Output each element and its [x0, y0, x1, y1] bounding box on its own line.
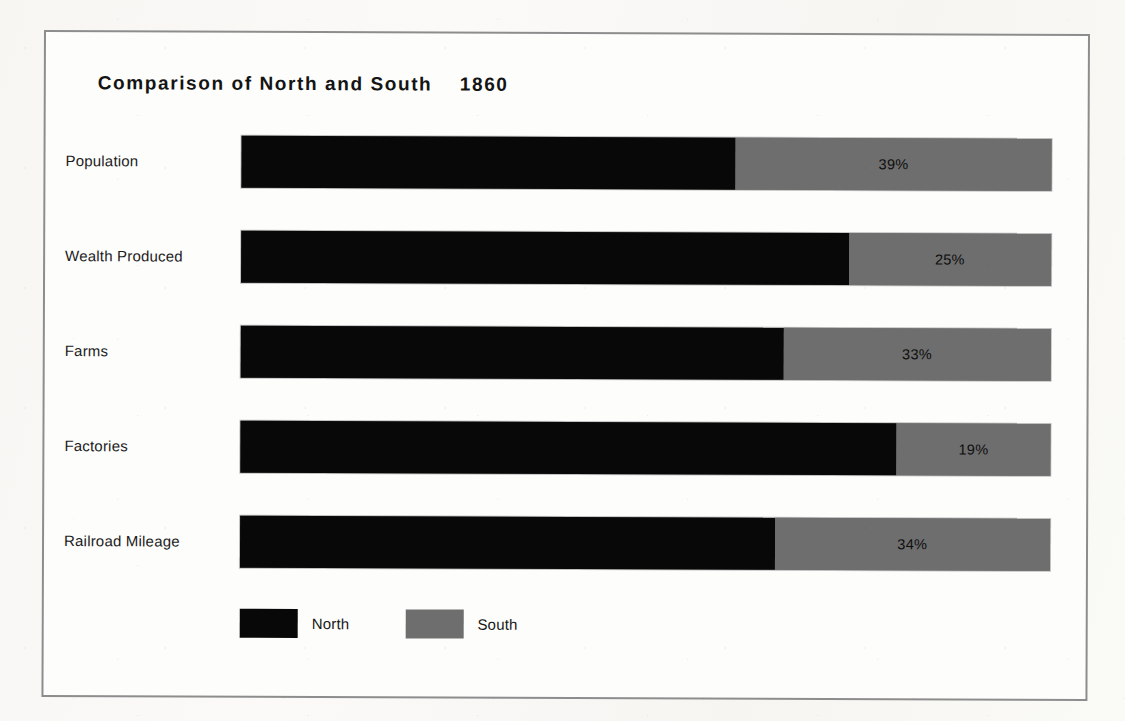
bar-segment-south: 19% [896, 423, 1050, 476]
bar-segment-north [241, 136, 735, 190]
legend-item: North [240, 608, 350, 637]
bar-value-label: 25% [935, 251, 965, 267]
chart-legend: NorthSouth [240, 606, 574, 641]
bar-rows-container: Population39%Wealth Produced25%Farms33%F… [46, 32, 1088, 36]
bar-segment-south: 25% [849, 233, 1052, 286]
bar-segment-south: 34% [775, 518, 1051, 571]
bar-row-label: Wealth Produced [65, 230, 183, 282]
bar-segment-north [240, 516, 775, 570]
legend-item: South [405, 609, 517, 638]
figure-inner: Comparison of North and South 1860 Popul… [43, 32, 1088, 699]
bar-row-label: Railroad Mileage [64, 515, 180, 567]
legend-swatch-south [405, 609, 463, 638]
bar-value-label: 33% [902, 346, 932, 362]
bar-track: 33% [241, 326, 1051, 381]
bar-row-label: Factories [64, 420, 128, 472]
bar-row-label: Farms [65, 325, 109, 377]
legend-item-label: North [312, 615, 350, 632]
bar-segment-north [241, 231, 849, 285]
bar-row-label: Population [65, 135, 138, 187]
bar-row: Wealth Produced25% [45, 230, 1087, 286]
bar-row: Population39% [45, 135, 1087, 191]
bar-row: Factories19% [44, 420, 1086, 476]
bar-track: 19% [240, 421, 1050, 476]
bar-row: Railroad Mileage34% [44, 515, 1086, 571]
bar-track: 25% [241, 231, 1051, 286]
bar-value-label: 34% [897, 536, 927, 552]
legend-item-label: South [477, 615, 517, 632]
bar-value-label: 19% [958, 442, 988, 458]
bar-value-label: 39% [879, 156, 909, 172]
bar-row: Farms33% [45, 325, 1087, 381]
bar-track: 39% [241, 136, 1051, 191]
bar-segment-south: 33% [783, 328, 1051, 381]
bar-segment-north [240, 421, 896, 476]
legend-swatch-north [240, 608, 298, 637]
bar-segment-south: 39% [735, 138, 1051, 191]
figure-frame: Comparison of North and South 1860 Popul… [41, 30, 1090, 701]
chart-title: Comparison of North and South 1860 [98, 72, 509, 96]
bar-segment-north [241, 326, 784, 380]
bar-track: 34% [240, 516, 1050, 571]
